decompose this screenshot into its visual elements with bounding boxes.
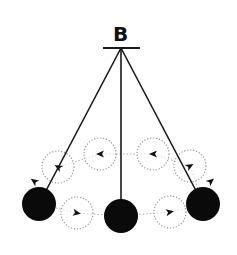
pendulum-diagram [0,0,237,255]
pendulum-ball-center [104,199,138,233]
pendulum-ball-left [22,187,56,221]
string-layer [39,48,203,216]
string-right [121,48,203,204]
pendulum-ball-right [186,187,220,221]
string-left [39,48,121,204]
arrow-icon-right-outer-arrow [206,176,217,187]
arrow-icon-left-outer-arrow [29,176,40,186]
